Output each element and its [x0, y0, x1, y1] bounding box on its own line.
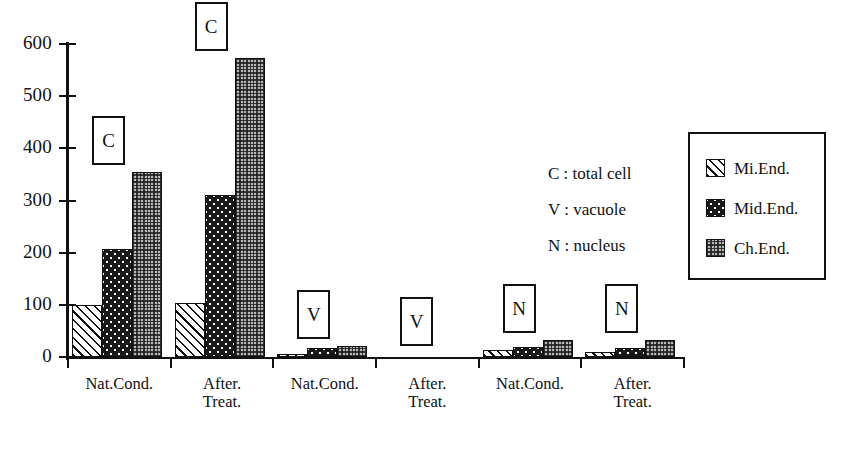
legend-label-mi-end: Mi.End.: [734, 160, 790, 177]
x-tick-4: [478, 357, 480, 368]
legend-swatch-mi-end-icon: [706, 159, 725, 177]
x-label-group-6: After.Treat.: [578, 375, 688, 411]
bar-mid-end-group-3: [307, 348, 337, 357]
x-label-group-2: After.Treat.: [167, 375, 277, 411]
bar-group-1: [72, 37, 171, 357]
x-tick-2: [272, 357, 274, 368]
legend-label-mid-end: Mid.End.: [734, 200, 798, 217]
legend-swatch-ch-end-icon: [706, 239, 725, 257]
legend: Mi.End. Mid.End. Ch.End.: [688, 132, 826, 280]
annotation-total-cell: C : total cell: [548, 156, 698, 192]
x-label-line1: After.: [614, 374, 652, 393]
marker-box-n-group-6: N: [605, 284, 638, 333]
x-label-line1: Nat.Cond.: [85, 374, 153, 393]
bar-chart: 0100200300400500600 CCVVNN Nat.Cond.Afte…: [0, 0, 845, 450]
plot-area: 0100200300400500600 CCVVNN Nat.Cond.Afte…: [0, 0, 845, 450]
legend-item-ch-end: Ch.End.: [706, 228, 824, 268]
annotation-key: C : total cell V : vacuole N : nucleus: [548, 156, 698, 264]
bar-mi-end-group-6: [585, 352, 615, 357]
marker-box-c-group-1: C: [92, 116, 125, 165]
y-tick-label-300: 300: [0, 190, 52, 209]
annotation-nucleus: N : nucleus: [548, 228, 698, 264]
legend-swatch-mid-end-icon: [706, 199, 725, 217]
x-label-line2: Treat.: [578, 393, 688, 411]
y-tick-label-600: 600: [0, 33, 52, 52]
marker-box-v-group-4: V: [400, 297, 433, 346]
bar-mi-end-group-2: [175, 303, 205, 357]
legend-item-mid-end: Mid.End.: [706, 188, 824, 228]
y-tick-label-500: 500: [0, 85, 52, 104]
y-tick-label-200: 200: [0, 242, 52, 261]
bar-mid-end-group-1: [102, 249, 132, 357]
x-tick-5: [580, 357, 582, 368]
x-label-line1: After.: [203, 374, 241, 393]
bar-mid-end-group-6: [615, 348, 645, 357]
legend-label-ch-end: Ch.End.: [734, 240, 790, 257]
bar-mi-end-group-5: [483, 350, 513, 357]
y-tick-label-400: 400: [0, 137, 52, 156]
legend-item-mi-end: Mi.End.: [706, 148, 824, 188]
bar-mid-end-group-5: [513, 347, 543, 357]
x-tick-1: [170, 357, 172, 368]
marker-box-n-group-5: N: [503, 284, 536, 333]
x-label-group-5: Nat.Cond.: [475, 375, 585, 393]
x-label-group-1: Nat.Cond.: [64, 375, 174, 393]
x-tick-3: [375, 357, 377, 368]
bar-ch-end-group-3: [337, 346, 367, 357]
bar-ch-end-group-2: [235, 58, 265, 357]
bar-group-2: [175, 37, 274, 357]
x-label-line2: Treat.: [372, 393, 482, 411]
x-label-line1: Nat.Cond.: [496, 374, 564, 393]
bar-ch-end-group-1: [132, 172, 162, 357]
annotation-vacuole: V : vacuole: [548, 192, 698, 228]
x-label-group-3: Nat.Cond.: [270, 375, 380, 393]
y-tick-label-100: 100: [0, 294, 52, 313]
bar-mid-end-group-2: [205, 195, 235, 357]
x-label-line1: Nat.Cond.: [291, 374, 359, 393]
marker-box-v-group-3: V: [297, 290, 330, 339]
x-label-line2: Treat.: [167, 393, 277, 411]
bar-ch-end-group-5: [543, 340, 573, 357]
x-label-line1: After.: [408, 374, 446, 393]
x-tick-0: [67, 357, 69, 368]
bar-mi-end-group-1: [72, 305, 102, 357]
x-tick-6: [683, 357, 685, 368]
bar-ch-end-group-6: [645, 340, 675, 357]
bar-mi-end-group-3: [277, 354, 307, 357]
y-tick-label-0: 0: [0, 346, 52, 365]
marker-box-c-group-2: C: [195, 2, 228, 51]
x-label-group-4: After.Treat.: [372, 375, 482, 411]
